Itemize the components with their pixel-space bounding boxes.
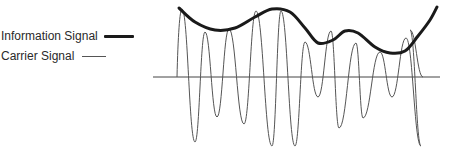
modulation-plot: [0, 0, 457, 151]
